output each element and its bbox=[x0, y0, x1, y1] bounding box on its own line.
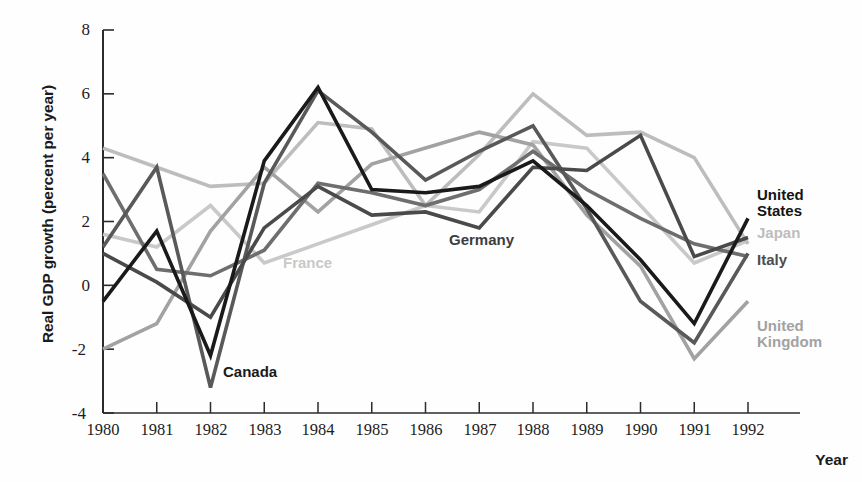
series-label-canada: Canada bbox=[223, 364, 277, 380]
series-line-united-kingdom bbox=[103, 132, 748, 359]
gdp-growth-line-chart: Real GDP growth (percent per year) 8 6 4… bbox=[0, 0, 862, 482]
series-line-canada bbox=[103, 91, 748, 388]
series-label-japan: Japan bbox=[757, 225, 800, 241]
series-label-united-states: United States bbox=[757, 187, 804, 219]
series-label-italy: Italy bbox=[757, 252, 787, 268]
series-label-united-kingdom: United Kingdom bbox=[757, 318, 822, 350]
series-line-japan bbox=[103, 94, 748, 244]
series-label-germany: Germany bbox=[449, 232, 514, 248]
x-axis-ticks bbox=[103, 402, 748, 413]
series-line-germany bbox=[103, 135, 748, 317]
data-series-group bbox=[103, 87, 748, 387]
plot-area bbox=[0, 0, 862, 482]
y-axis-ticks bbox=[103, 30, 114, 413]
series-label-france: France bbox=[283, 255, 332, 271]
